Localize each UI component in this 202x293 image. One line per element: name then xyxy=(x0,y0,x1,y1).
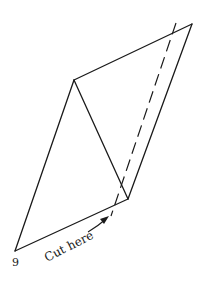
edge-left xyxy=(15,80,74,251)
fold-line xyxy=(74,80,128,199)
fold-cut-diagram: Cut here 9 xyxy=(0,0,202,293)
cut-line-dashed xyxy=(111,23,176,216)
step-number: 9 xyxy=(12,256,19,269)
outline xyxy=(15,24,192,251)
cut-arrow-icon xyxy=(88,216,109,232)
cut-here-label: Cut here xyxy=(42,228,96,265)
